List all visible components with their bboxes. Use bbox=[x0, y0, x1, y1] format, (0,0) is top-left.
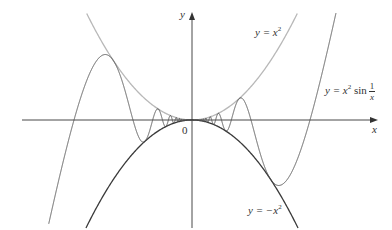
y-axis-arrow-icon bbox=[189, 12, 195, 20]
origin-label: 0 bbox=[182, 125, 188, 136]
upper-bound-label-text: y = x bbox=[255, 26, 278, 38]
diagram-canvas bbox=[0, 0, 392, 230]
x-axis-label: x bbox=[372, 124, 377, 135]
oscillating-label-func: sin bbox=[354, 84, 367, 96]
lower-bound-label-exponent: 2 bbox=[278, 203, 282, 211]
fraction-numerator: 1 bbox=[369, 81, 376, 92]
y-axis-label: y bbox=[180, 9, 185, 20]
oscillating-label-exponent: 2 bbox=[348, 83, 352, 91]
upper-bound-label-exponent: 2 bbox=[278, 25, 282, 33]
oscillating-label-fraction: 1x bbox=[369, 81, 376, 102]
fraction-denominator: x bbox=[370, 92, 374, 102]
lower-bound-label: y = −x2 bbox=[248, 204, 282, 216]
oscillating-label: y = x2 sin1x bbox=[325, 81, 375, 102]
upper-bound-label: y = x2 bbox=[255, 26, 281, 38]
lower-bound-label-text: y = −x bbox=[248, 204, 278, 216]
oscillating-label-text: y = x bbox=[325, 84, 348, 96]
